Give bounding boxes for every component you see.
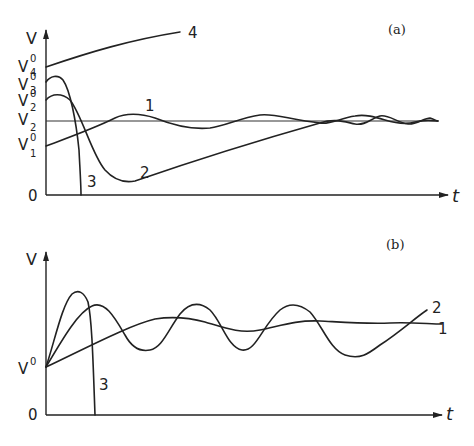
panel-b-curve-2-label: 2 [432, 299, 442, 317]
diagram-canvas: (a) V t V 0 4 V 0 3 V 0 2 V 2 V 0 1 [0, 0, 474, 446]
panel-b-label: (b) [386, 237, 404, 252]
svg-text:V: V [18, 58, 29, 76]
panel-b-tick-zero: 0 [28, 406, 38, 424]
panel-a-label: (a) [388, 22, 406, 37]
panel-a: (a) V t V 0 4 V 0 3 V 0 2 V 2 V 0 1 [18, 22, 460, 206]
panel-b-x-label: t [446, 403, 454, 424]
svg-text:0: 0 [30, 356, 36, 367]
svg-text:V: V [18, 111, 29, 129]
svg-text:2: 2 [30, 102, 36, 113]
panel-b-y-label: V [26, 250, 37, 269]
panel-a-curve-3 [46, 76, 81, 195]
panel-a-curve-1-label: 1 [145, 97, 155, 115]
svg-text:0: 0 [30, 53, 36, 64]
panel-a-curve-3-label: 3 [87, 173, 97, 191]
svg-text:V: V [18, 360, 29, 378]
panel-b-curve-1-label: 1 [438, 320, 448, 338]
svg-text:V: V [18, 136, 29, 154]
panel-a-tick-zero: 0 [28, 187, 38, 205]
svg-text:0: 0 [30, 88, 36, 99]
panel-a-tick-v2-0: V 0 2 [18, 88, 36, 113]
panel-a-y-label: V [26, 29, 37, 48]
svg-text:V: V [18, 92, 29, 110]
panel-b-curve-1 [46, 318, 442, 367]
panel-a-curve-4 [46, 32, 180, 67]
svg-text:0: 0 [30, 132, 36, 143]
panel-a-tick-v2: V 2 [18, 111, 36, 133]
panel-a-curve-1 [46, 114, 438, 146]
panel-a-curve-4-label: 4 [188, 24, 198, 42]
panel-a-tick-v1: V 0 1 [18, 132, 36, 159]
panel-b-tick-v0: V 0 [18, 356, 36, 378]
panel-b-curve-2 [46, 304, 427, 367]
panel-a-curve-2-label: 2 [140, 164, 150, 182]
panel-b: (b) V t V 0 0 3 2 1 [18, 237, 454, 424]
panel-a-curve-2 [46, 95, 438, 182]
svg-text:1: 1 [30, 148, 36, 159]
panel-a-x-label: t [452, 185, 460, 206]
svg-text:0: 0 [30, 71, 36, 82]
panel-b-curve-3-label: 3 [99, 376, 109, 394]
